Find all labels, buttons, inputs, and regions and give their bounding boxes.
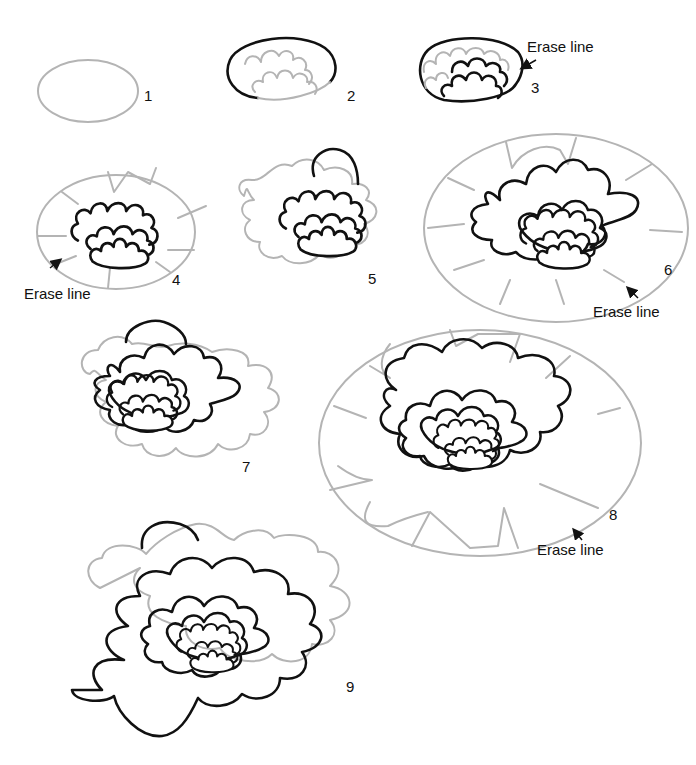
- erase-line-note-3: Erase line: [527, 38, 594, 55]
- step-1-sketch: [38, 60, 138, 122]
- step-7-sketch: [82, 321, 279, 457]
- step-number-1: 1: [144, 87, 152, 104]
- step-8-sketch: [319, 330, 641, 556]
- step-number-7: 7: [242, 458, 250, 475]
- step-4-sketch: [37, 168, 206, 289]
- erase-line-note-8: Erase line: [537, 541, 604, 558]
- step-6-sketch: [424, 134, 688, 322]
- drawing-canvas: [0, 0, 696, 765]
- step-number-4: 4: [172, 271, 180, 288]
- step-5-sketch: [239, 149, 376, 263]
- step-number-9: 9: [346, 678, 354, 695]
- erase-line-note-4: Erase line: [24, 285, 91, 302]
- step-3-sketch: [420, 38, 536, 101]
- step-9-sketch: [72, 522, 350, 736]
- step-2-sketch: [228, 38, 336, 100]
- step-number-5: 5: [368, 270, 376, 287]
- step-number-6: 6: [664, 261, 672, 278]
- step-number-3: 3: [531, 79, 539, 96]
- step-number-2: 2: [347, 87, 355, 104]
- step-number-8: 8: [609, 506, 617, 523]
- erase-line-note-6: Erase line: [593, 303, 660, 320]
